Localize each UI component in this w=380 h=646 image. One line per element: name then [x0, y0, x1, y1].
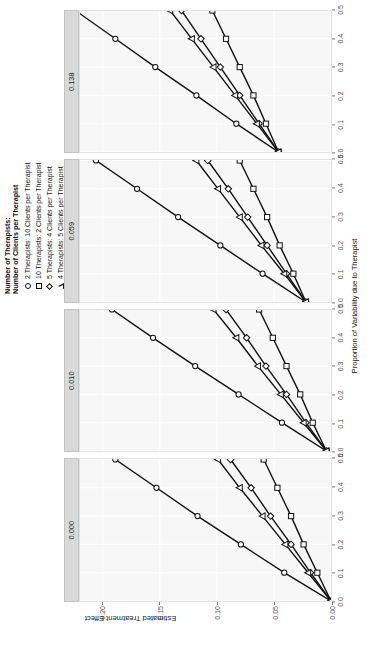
y-axis-tick-label: 0.05	[271, 606, 278, 620]
x-axis-tick-mark	[332, 602, 335, 603]
square-marker	[223, 37, 228, 42]
circle-marker	[260, 271, 265, 276]
series-line	[182, 11, 279, 153]
square-marker	[264, 215, 269, 220]
triangle-marker	[236, 485, 242, 491]
circle-marker	[279, 421, 284, 426]
x-axis-tick-mark	[332, 124, 335, 125]
x-axis-tick-label: 0.0	[337, 298, 344, 308]
circle-marker	[218, 243, 223, 248]
square-marker	[298, 392, 303, 397]
triangle-marker	[188, 36, 194, 42]
circle-marker-icon	[25, 279, 31, 294]
x-axis-tick-mark	[332, 309, 335, 310]
diamond-marker-icon	[47, 279, 52, 294]
y-axis-tick-label: 0.00	[329, 606, 336, 620]
triangle-marker	[215, 460, 221, 463]
x-axis-ticks-panel-0.000: 0.00.10.20.30.40.5	[332, 459, 346, 603]
series-line	[112, 310, 326, 452]
plot-area	[79, 309, 332, 453]
panel-strip-label: 0.010	[64, 309, 79, 453]
x-axis-tick-mark	[332, 337, 335, 338]
x-axis-tick-mark	[332, 487, 335, 488]
x-axis-tick-mark	[332, 188, 335, 189]
circle-marker	[238, 542, 243, 547]
plot-area	[79, 10, 332, 154]
x-axis-tick-label: 0.4	[337, 183, 344, 193]
chart-screenshot: Number of Therapists: Number of Clients …	[0, 0, 380, 646]
panel-grid: 0.0000.0100.0590.138	[64, 10, 332, 602]
series-line	[80, 11, 279, 153]
panel-strip-label: 0.000	[64, 459, 79, 603]
legend-item-label: 10 Therapists: 2 Clients per Therapist	[35, 163, 42, 279]
x-axis-tick-label: 0.5	[337, 5, 344, 15]
x-axis-tick-label: 0.3	[337, 511, 344, 521]
circle-marker	[194, 93, 199, 98]
circle-marker	[176, 215, 181, 220]
x-axis-ticks-panel-0.010: 0.00.10.20.30.40.5	[332, 309, 346, 453]
square-marker	[301, 542, 306, 547]
panel-0.138: 0.138	[64, 10, 332, 154]
legend-item-label: 5 Therapists: 4 Clients per Therapist	[46, 166, 53, 279]
legend-item-2[interactable]: 5 Therapists: 4 Clients per Therapist	[44, 2, 55, 294]
triangle-marker	[232, 93, 238, 99]
triangle-marker	[210, 310, 216, 313]
panel-strip-label: 0.138	[64, 10, 79, 154]
x-axis-tick-mark	[332, 159, 335, 160]
x-axis-tick-label: 0.2	[337, 241, 344, 251]
x-axis-tick-mark	[332, 395, 335, 396]
square-marker	[210, 11, 215, 14]
x-axis-tick-mark	[332, 67, 335, 68]
y-axis: 0.000.050.100.150.20	[79, 602, 332, 646]
legend-item-label: 2 Therapists: 10 Clients per Therapist	[24, 163, 31, 279]
plot-area	[79, 459, 332, 603]
x-axis-tick-label: 0.1	[337, 568, 344, 578]
x-axis-tick-mark	[332, 245, 335, 246]
triangle-marker	[210, 64, 216, 70]
legend-title: Number of Therapists: Number of Clients …	[4, 2, 19, 294]
triangle-marker	[167, 11, 173, 14]
circle-marker	[193, 364, 198, 369]
legend-item-1[interactable]: 10 Therapists: 2 Clients per Therapist	[33, 2, 44, 294]
series-line	[212, 11, 278, 153]
square-marker	[310, 421, 315, 426]
x-axis-tick-label: 0.4	[337, 34, 344, 44]
y-axis-label: Estimated Treatment Effect	[21, 614, 241, 623]
triangle-marker	[254, 363, 260, 369]
figure: Number of Therapists: Number of Clients …	[0, 0, 380, 646]
triangle-marker	[253, 121, 259, 127]
panel-0.059: 0.059	[64, 160, 332, 304]
circle-marker	[154, 485, 159, 490]
x-axis-ticks-panel-0.059: 0.00.10.20.30.40.5	[332, 160, 346, 304]
square-marker	[284, 364, 289, 369]
y-axis-tick-mark	[217, 602, 218, 605]
series-line	[208, 161, 306, 303]
series-line	[196, 161, 306, 303]
panel-0.000: 0.000	[64, 459, 332, 603]
circle-marker	[234, 122, 239, 127]
panel-0.010: 0.010	[64, 309, 332, 453]
legend-item-0[interactable]: 2 Therapists: 10 Clients per Therapist	[22, 2, 33, 294]
x-axis-tick-label: 0.1	[337, 120, 344, 130]
panel-strip-label: 0.059	[64, 160, 79, 304]
x-axis-tick-mark	[332, 303, 335, 304]
series-line	[231, 460, 331, 602]
square-marker	[291, 271, 296, 276]
x-axis-tick-label: 0.3	[337, 63, 344, 73]
x-axis: 0.00.10.20.30.40.50.00.10.20.30.40.50.00…	[332, 10, 346, 602]
circle-marker	[113, 37, 118, 42]
circle-marker	[109, 310, 114, 313]
series-line	[170, 11, 278, 153]
square-marker	[288, 514, 293, 519]
x-axis-tick-mark	[332, 217, 335, 218]
series-line	[115, 460, 331, 602]
x-axis-label: Proportion of Variability due to Therapi…	[350, 10, 359, 602]
circle-marker	[195, 514, 200, 519]
y-axis-tick-mark	[274, 602, 275, 605]
x-axis-tick-label: 0.1	[337, 269, 344, 279]
x-axis-tick-label: 0.4	[337, 333, 344, 343]
x-axis-tick-label: 0.0	[337, 149, 344, 159]
x-axis-tick-label: 0.3	[337, 362, 344, 372]
plot-area	[79, 160, 332, 304]
circle-marker	[236, 392, 241, 397]
